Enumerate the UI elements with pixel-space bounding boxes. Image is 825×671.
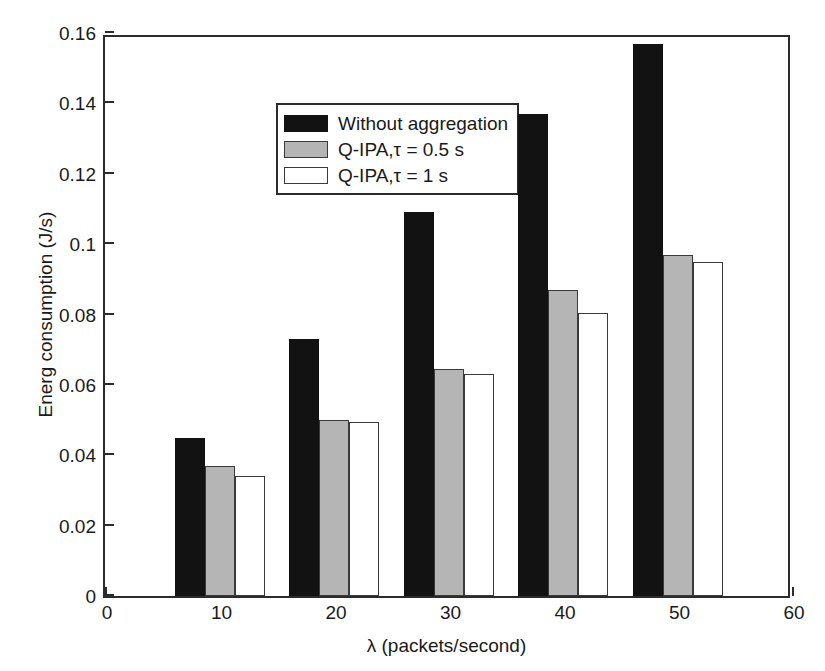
bar	[434, 369, 464, 596]
y-axis-tick: 0.1	[105, 242, 114, 244]
bar	[548, 290, 578, 596]
bar	[349, 422, 379, 596]
bar	[693, 262, 723, 596]
bar	[205, 466, 235, 596]
legend-item: Q-IPA,τ = 1 s	[284, 162, 508, 188]
x-axis-tick-label: 20	[325, 603, 346, 622]
legend-label-qipa-05s: Q-IPA,τ = 0.5 s	[338, 140, 464, 159]
x-axis-tick-label: 30	[440, 603, 461, 622]
y-axis-tick: 0.08	[105, 313, 114, 315]
legend-item: Without aggregation	[284, 110, 508, 136]
y-axis-tick-label: 0.14	[59, 94, 96, 113]
x-axis-title: λ (packets/second)	[103, 636, 790, 655]
y-axis-tick: 0.12	[105, 172, 114, 174]
figure-canvas: Without aggregation Q-IPA,τ = 0.5 s Q-IP…	[0, 0, 825, 671]
x-axis-tick-label: 10	[211, 603, 232, 622]
legend-item: Q-IPA,τ = 0.5 s	[284, 136, 508, 162]
y-axis-tick: 0.14	[105, 101, 114, 103]
bar	[464, 374, 494, 596]
x-axis-tick-label: 50	[669, 603, 690, 622]
bar	[578, 313, 608, 596]
x-axis-tick: 0	[105, 587, 107, 596]
y-axis-title: Energ consumption (J/s)	[36, 33, 55, 596]
bar	[289, 339, 319, 596]
y-axis-tick: 0.04	[105, 453, 114, 455]
y-axis-tick: 0.16	[105, 31, 114, 33]
legend-label-qipa-1s: Q-IPA,τ = 1 s	[338, 166, 448, 185]
bar	[235, 476, 265, 596]
plot-area: Without aggregation Q-IPA,τ = 0.5 s Q-IP…	[103, 35, 790, 598]
y-axis-tick-label: 0.08	[59, 305, 96, 324]
legend-swatch-qipa-1s	[284, 167, 328, 184]
y-axis-tick-label: 0.06	[59, 375, 96, 394]
y-axis-tick-label: 0.12	[59, 164, 96, 183]
bar	[175, 438, 205, 596]
bar	[633, 44, 663, 596]
y-axis-tick-label: 0.16	[59, 24, 96, 43]
x-axis-tick-label: 0	[102, 603, 113, 622]
chart-legend: Without aggregation Q-IPA,τ = 0.5 s Q-IP…	[276, 103, 519, 195]
bar	[319, 420, 349, 596]
y-axis-tick: 0.06	[105, 383, 114, 385]
x-axis-tick-label: 40	[554, 603, 575, 622]
y-axis-tick-label: 0.1	[70, 235, 96, 254]
legend-swatch-without-aggregation	[284, 115, 328, 132]
x-axis-tick: 60	[792, 587, 794, 596]
legend-swatch-qipa-05s	[284, 141, 328, 158]
bar	[518, 114, 548, 596]
legend-label-without-aggregation: Without aggregation	[338, 114, 508, 133]
bar	[404, 212, 434, 596]
bar	[663, 255, 693, 596]
y-axis-tick: 0.02	[105, 524, 114, 526]
y-axis-tick-label: 0.02	[59, 516, 96, 535]
y-axis-tick-label: 0.04	[59, 446, 96, 465]
x-axis-tick-label: 60	[783, 603, 804, 622]
y-axis-tick-label: 0	[85, 587, 96, 606]
